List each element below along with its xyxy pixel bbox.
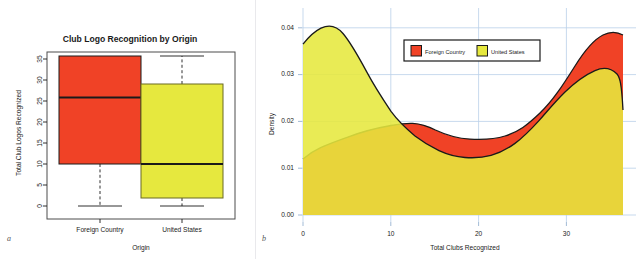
density-svg: 0.00 0.01 0.02 0.03 0.04 Density 0 10 2 [255,0,643,259]
panel-a-ytick-30: 30 [36,76,43,84]
panel-a-xtick-foreign-country: Foreign Country [76,226,124,234]
panel-a-ytick-35: 35 [36,55,43,63]
panel-letter-a: a [7,234,11,243]
panel-b-y-axis-label: Density [268,112,276,135]
panel-letter-b: b [262,234,266,243]
box-foreign-country[interactable] [59,56,141,164]
box-united-states[interactable] [141,84,223,198]
legend-label-foreign-country: Foreign Country [425,49,465,55]
panel-a-ytick-25: 25 [36,97,43,105]
panel-a-ytick-10: 10 [36,160,43,168]
panel-a-ytick-15: 15 [36,139,43,147]
panel-b-ytick-000: 0.00 [281,211,294,218]
panel-a-y-axis: 0 5 10 15 20 25 30 35 [36,55,47,208]
panel-b-y-axis: 0.00 0.01 0.02 0.03 0.04 [281,24,302,218]
panel-a-x-axis: Foreign Country United States [76,219,202,234]
legend-label-united-states: United States [491,49,525,55]
panel-a-ytick-5: 5 [36,183,43,187]
panel-b-x-axis-label: Total Clubs Recognized [430,244,500,252]
panel-b-ytick-003: 0.03 [281,70,294,77]
panel-a-xtick-united-states: United States [162,226,202,233]
legend-swatch-foreign-country[interactable] [411,46,422,57]
panel-a-ytick-20: 20 [36,118,43,126]
figure-root: Club Logo Recognition by Origin 0 5 10 1… [0,0,643,259]
panel-b-xtick-30: 30 [563,230,571,237]
panel-a-boxplot: Club Logo Recognition by Origin 0 5 10 1… [0,0,255,259]
panel-b-ytick-002: 0.02 [281,117,294,124]
panel-b-xtick-0: 0 [301,230,305,237]
panel-b-density: 0.00 0.01 0.02 0.03 0.04 Density 0 10 2 [255,0,643,259]
panel-b-xtick-20: 20 [475,230,483,237]
panel-a-title: Club Logo Recognition by Origin [63,34,198,44]
panel-b-x-axis: 0 10 20 30 [301,222,570,237]
panel-b-ytick-004: 0.04 [281,24,294,31]
panel-a-x-axis-label: Origin [132,244,150,252]
panel-b-ytick-001: 0.01 [281,164,294,171]
panel-a-ytick-0: 0 [36,204,43,208]
boxplot-svg: Club Logo Recognition by Origin 0 5 10 1… [0,0,255,259]
panel-b-xtick-10: 10 [387,230,395,237]
legend-swatch-united-states[interactable] [477,46,488,57]
density-legend[interactable]: Foreign Country United States [404,40,540,61]
panel-a-y-axis-label: Total Club Logos Recognized [15,90,23,176]
